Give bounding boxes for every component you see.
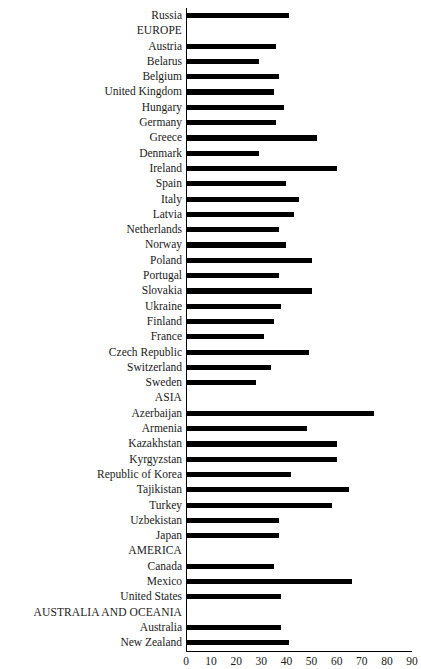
category-label: AUSTRALIA AND OCEANIA [0,605,182,620]
bar [186,181,286,186]
chart-group-row: AUSTRALIA AND OCEANIA [0,605,421,620]
category-label: Portugal [0,268,182,283]
category-label: Kyrgyzstan [0,452,182,467]
chart-bar-row: Sweden [0,375,421,390]
bar-track [186,620,418,635]
chart-bar-row: Slovakia [0,283,421,298]
bar [186,380,256,385]
chart-bar-row: Belgium [0,69,421,84]
bar [186,441,337,446]
category-label: AMERICA [0,543,182,558]
bar [186,151,259,156]
bar [186,487,349,492]
bar [186,242,286,247]
bar-track [186,192,418,207]
chart-bar-row: Denmark [0,146,421,161]
bar-track [186,54,418,69]
chart-bar-row: Austria [0,39,421,54]
bar-track [186,345,418,360]
category-label: Finland [0,314,182,329]
bar-track [186,207,418,222]
bar-track [186,39,418,54]
bar [186,594,281,599]
bar [186,44,276,49]
bar-track [186,314,418,329]
bar [186,457,337,462]
bar-track [186,589,418,604]
x-axis-line [186,651,412,652]
category-label: Armenia [0,421,182,436]
bar-track [186,375,418,390]
bar-track [186,635,418,650]
x-tick-label: 80 [375,653,399,669]
chart-bar-row: Greece [0,130,421,145]
chart-bar-row: Latvia [0,207,421,222]
chart-bar-row: France [0,329,421,344]
chart-bar-row: Australia [0,620,421,635]
chart-plot-area: RussiaEUROPEAustriaBelarusBelgiumUnited … [0,8,421,650]
bar [186,13,289,18]
bar [186,472,291,477]
bar-track [186,528,418,543]
chart-bar-row: Finland [0,314,421,329]
category-label: Spain [0,176,182,191]
x-tick-label: 70 [350,653,374,669]
bar-track [186,100,418,115]
category-label: Mexico [0,574,182,589]
category-label: Turkey [0,498,182,513]
category-label: Denmark [0,146,182,161]
chart-bar-row: Germany [0,115,421,130]
bar-track [186,8,418,23]
chart-bar-row: Spain [0,176,421,191]
category-label: Slovakia [0,283,182,298]
chart-bar-row: United States [0,589,421,604]
category-label: Ukraine [0,299,182,314]
chart-bar-row: Armenia [0,421,421,436]
category-label: Japan [0,528,182,543]
chart-bar-row: Mexico [0,574,421,589]
bar-track [186,498,418,513]
bar-track [186,436,418,451]
bar [186,197,299,202]
category-label: Germany [0,115,182,130]
category-label: Italy [0,192,182,207]
category-label: Latvia [0,207,182,222]
bar [186,518,279,523]
category-label: Russia [0,8,182,23]
chart-bar-row: Netherlands [0,222,421,237]
chart-bar-row: Ireland [0,161,421,176]
bar [186,625,281,630]
chart-bar-row: Russia [0,8,421,23]
chart-bar-row: Canada [0,559,421,574]
bar-track [186,559,418,574]
bar-track [186,283,418,298]
chart-bar-row: Hungary [0,100,421,115]
x-tick-label: 90 [400,653,421,669]
category-label: Republic of Korea [0,467,182,482]
chart-bar-row: Czech Republic [0,345,421,360]
category-label: Switzerland [0,360,182,375]
category-label: Tajikistan [0,482,182,497]
bar-track [186,574,418,589]
bar [186,579,352,584]
chart-bar-row: Republic of Korea [0,467,421,482]
category-label: United Kingdom [0,84,182,99]
bar-track [186,421,418,436]
category-label: New Zealand [0,635,182,650]
chart-bar-row: Azerbaijan [0,406,421,421]
bar-track [186,390,418,405]
category-label: Belgium [0,69,182,84]
chart-bar-row: Tajikistan [0,482,421,497]
chart-bar-row: Kyrgyzstan [0,452,421,467]
x-tick-label: 30 [249,653,273,669]
bar [186,105,284,110]
bar [186,258,312,263]
bar [186,411,374,416]
chart-bar-row: Switzerland [0,360,421,375]
category-label: Ireland [0,161,182,176]
bar-track [186,360,418,375]
bar-track [186,237,418,252]
chart-bar-row: Poland [0,253,421,268]
bar [186,350,309,355]
